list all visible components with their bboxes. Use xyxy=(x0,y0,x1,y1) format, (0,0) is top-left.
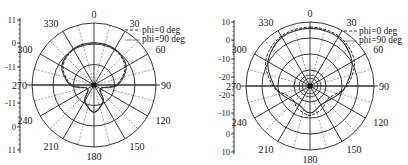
scale-label: -20 xyxy=(219,90,230,100)
angle-label-300: 300 xyxy=(18,44,33,55)
angle-label-240: 240 xyxy=(232,117,247,128)
angle-label-60: 60 xyxy=(156,44,166,55)
angle-label-180: 180 xyxy=(87,151,102,162)
scale-label: 10 xyxy=(222,17,231,27)
polar-plot-right: 100-10-20-20-10010 030609012015018021024… xyxy=(204,0,408,165)
angle-label-0: 0 xyxy=(92,9,97,20)
scale-label: 11 xyxy=(8,15,16,25)
scale-label: 0 xyxy=(12,38,16,48)
angle-label-90: 90 xyxy=(161,80,171,91)
angle-label-270: 270 xyxy=(12,80,27,91)
angle-label-90: 90 xyxy=(379,81,389,92)
legend-item-phi90: phi=90 deg xyxy=(359,35,402,45)
grid-spoke xyxy=(63,31,94,85)
scale-label: 0 xyxy=(12,122,16,132)
legend-item-phi90: phi=90 deg xyxy=(142,34,185,44)
scale-label: 0 xyxy=(226,129,230,139)
angle-label-150: 150 xyxy=(347,144,362,155)
scale-label: -10 xyxy=(219,54,230,64)
grid-spoke-minor xyxy=(94,25,110,85)
angle-label-270: 270 xyxy=(226,81,241,92)
grid-spoke xyxy=(94,85,125,139)
grid-spoke-minor xyxy=(78,25,94,85)
angle-label-240: 240 xyxy=(18,115,33,126)
angle-label-180: 180 xyxy=(303,154,318,165)
scale-label: -10 xyxy=(219,108,230,118)
legend: phi=0 deg phi=90 deg xyxy=(344,26,402,45)
angle-label-30: 30 xyxy=(130,18,140,29)
grid-spoke-minor xyxy=(78,85,94,145)
angle-label-330: 330 xyxy=(259,17,274,28)
scale-label: 0 xyxy=(226,35,230,45)
grid-spoke xyxy=(94,85,148,116)
scale-label: 11 xyxy=(8,145,16,155)
polar-chart-left: 110-11-11011 030609012015018021024027030… xyxy=(0,0,204,165)
center-point xyxy=(307,83,312,88)
center-point xyxy=(91,82,96,87)
polar-grid xyxy=(26,23,160,147)
angle-label-210: 210 xyxy=(259,144,274,155)
scale-label: -11 xyxy=(5,98,16,108)
angle-label-120: 120 xyxy=(156,115,171,126)
angle-label-120: 120 xyxy=(373,117,388,128)
angle-label-30: 30 xyxy=(347,17,357,28)
polar-plot-left: 110-11-11011 030609012015018021024027030… xyxy=(0,0,204,165)
grid-spoke xyxy=(94,31,125,85)
grid-spoke xyxy=(40,85,94,116)
grid-spoke xyxy=(63,85,94,139)
angle-label-150: 150 xyxy=(130,141,145,152)
angle-label-210: 210 xyxy=(44,141,59,152)
angle-label-60: 60 xyxy=(373,44,383,55)
angle-label-330: 330 xyxy=(44,18,59,29)
angle-label-300: 300 xyxy=(232,44,247,55)
grid-spoke-minor xyxy=(94,85,110,145)
polar-chart-right: 100-10-20-20-10010 030609012015018021024… xyxy=(204,0,408,165)
polar-grid xyxy=(240,22,378,150)
scale-label: 10 xyxy=(222,147,231,157)
scale-label: -11 xyxy=(5,62,16,72)
angle-label-0: 0 xyxy=(308,8,313,19)
